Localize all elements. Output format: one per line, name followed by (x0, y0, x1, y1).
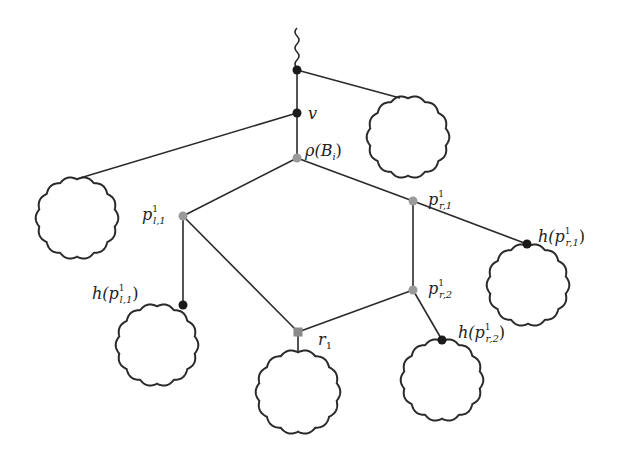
node-p-l1 (179, 212, 188, 221)
label-p-r2: p1r,2 (428, 278, 452, 300)
node-p-r2 (409, 286, 418, 295)
label-p-r1: p1r,1 (428, 189, 452, 211)
edge-top-blob (297, 70, 400, 98)
label-r1: r1 (318, 330, 332, 351)
edge-rho-pl1 (183, 158, 297, 216)
wavy-blob-blob_left_top (36, 177, 119, 258)
wavy-blob-blob_bottom (256, 351, 341, 434)
node-h-pl1 (179, 301, 188, 310)
node-h-pr1 (523, 240, 532, 249)
graph-diagram: v ρ(Bi) p1l,1 p1r,1 p1r,2 r1 h(p1l,1) h(… (0, 0, 626, 476)
label-h-pl1: h(p1l,1) (92, 283, 139, 305)
node-p-r1 (409, 197, 418, 206)
edge-v-blob (80, 113, 297, 178)
edge-pl1-r1 (183, 216, 298, 332)
label-h-pr1: h(p1r,1) (538, 226, 585, 248)
label-v: v (308, 104, 317, 123)
node-r1 (294, 328, 303, 337)
edge-pr2-r1 (298, 290, 413, 332)
wavy-blob-blob_right (487, 244, 570, 325)
label-p-l1: p1l,1 (142, 204, 166, 226)
nodes (179, 66, 532, 345)
node-h-pr2 (438, 336, 447, 345)
node-rho (293, 154, 302, 163)
label-h-pr2: h(p1r,2) (458, 322, 505, 344)
wavy-blob-blob_left_bottom (116, 304, 199, 385)
wavy-blob-blob_right_bottom (401, 339, 484, 420)
wavy-blob-blob_top_right (367, 96, 450, 177)
labels: v ρ(Bi) p1l,1 p1r,1 p1r,2 r1 h(p1l,1) h(… (92, 104, 585, 351)
wavy-stub (295, 28, 299, 70)
edge-rho-pr1 (297, 158, 413, 201)
wavy-blobs (36, 96, 570, 433)
node-v (293, 109, 302, 118)
label-rho: ρ(Bi) (304, 141, 342, 162)
node-top (293, 66, 302, 75)
